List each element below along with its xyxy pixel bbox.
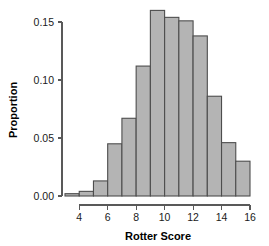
histogram-bar xyxy=(122,118,136,196)
histogram-bar xyxy=(193,36,207,196)
x-tick-label: 4 xyxy=(76,211,82,223)
y-tick-label: 0.15 xyxy=(34,16,55,28)
histogram-bar xyxy=(65,194,79,196)
histogram-bar xyxy=(207,96,221,196)
x-tick-label: 8 xyxy=(133,211,139,223)
chart-canvas: 0.000.050.100.15 46810121416 Proportion … xyxy=(0,0,269,246)
histogram-bar xyxy=(93,181,107,196)
y-axis: 0.000.050.100.15 xyxy=(34,16,62,202)
y-tick-label: 0.00 xyxy=(34,190,55,202)
x-axis-title: Rotter Score xyxy=(125,230,191,242)
histogram-bar xyxy=(136,66,150,196)
histogram-bar xyxy=(79,191,93,196)
x-tick-label: 12 xyxy=(187,211,199,223)
x-tick-label: 10 xyxy=(159,211,171,223)
x-axis: 46810121416 xyxy=(76,205,256,223)
histogram-bar xyxy=(222,143,236,196)
histogram-bar xyxy=(150,10,164,196)
x-tick-label: 16 xyxy=(244,211,256,223)
bars-group xyxy=(65,10,250,196)
histogram-chart: 0.000.050.100.15 46810121416 Proportion … xyxy=(0,0,269,246)
y-axis-title: Proportion xyxy=(7,82,19,138)
histogram-bar xyxy=(165,17,179,196)
histogram-bar xyxy=(108,144,122,196)
histogram-bar xyxy=(236,161,250,196)
x-tick-label: 6 xyxy=(105,211,111,223)
y-tick-label: 0.10 xyxy=(34,74,55,86)
y-tick-label: 0.05 xyxy=(34,132,55,144)
histogram-bar xyxy=(179,21,193,196)
x-tick-label: 14 xyxy=(216,211,228,223)
